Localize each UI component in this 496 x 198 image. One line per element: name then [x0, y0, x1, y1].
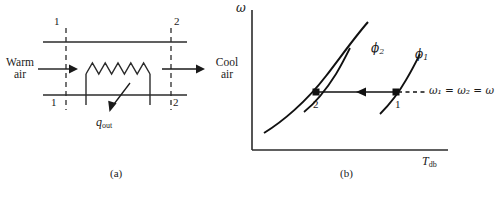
x-axis-label: Tdb [422, 155, 437, 169]
panel-b-caption: (b) [340, 168, 353, 180]
x-axis-label-subscript: db [429, 160, 437, 169]
curve-label-phi1-subscript: 1 [423, 53, 428, 62]
curve-label-phi2-symbol: ϕ [371, 41, 379, 55]
station-label-top-1: 1 [54, 16, 60, 28]
coil-zigzag [86, 63, 150, 74]
duct-schematic-drawing [0, 0, 250, 198]
station-label-bottom-2: 2 [173, 97, 179, 109]
inlet-air-label-line1: Warm [0, 56, 40, 68]
heat-out-arrow [108, 83, 130, 112]
relative-humidity-curve-phi2 [304, 48, 350, 112]
heat-out-label: qout [96, 116, 112, 130]
curve-label-phi1: ϕ1 [415, 48, 428, 62]
curve-label-phi1-symbol: ϕ [415, 47, 423, 61]
inlet-flow-arrow [38, 65, 78, 74]
state-point-marker-1 [393, 89, 400, 96]
outlet-flow-arrow [162, 65, 205, 74]
panel-b-psychrometric-chart: ω Tdb ϕ2 ϕ1 2 1 ω₁ = ω₂ = ω (b) [230, 0, 496, 198]
station-label-top-2: 2 [174, 16, 180, 28]
psychrometric-chart-drawing [230, 0, 496, 198]
y-axis-label: ω [236, 2, 246, 15]
state-point-label-1: 1 [395, 99, 401, 111]
curve-label-phi2: ϕ2 [371, 42, 384, 56]
x-axis-label-symbol: T [422, 154, 429, 168]
state-point-marker-2 [313, 89, 320, 96]
humidity-ratio-note: ω₁ = ω₂ = ω [429, 85, 494, 96]
inlet-air-label-line2: air [0, 68, 40, 80]
heat-out-label-subscript: out [102, 121, 112, 130]
saturation-curve [264, 22, 368, 133]
curve-label-phi2-subscript: 2 [379, 47, 384, 56]
panel-a-duct-schematic: 1 2 1 2 Warm air Cool air qout (a) [0, 0, 250, 198]
station-label-bottom-1: 1 [51, 97, 57, 109]
figure-container: 1 2 1 2 Warm air Cool air qout (a) [0, 0, 496, 198]
process-direction-arrowhead [356, 88, 366, 97]
panel-a-caption: (a) [110, 168, 122, 180]
process-line-1-to-2 [316, 88, 396, 97]
state-point-label-2: 2 [313, 99, 319, 111]
inlet-air-label: Warm air [0, 56, 40, 80]
